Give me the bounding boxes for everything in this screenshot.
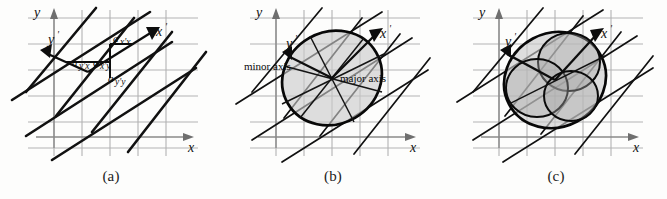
figure-root: y x x ' y [0, 0, 667, 199]
axis-x-prime-a [88, 27, 160, 72]
label-minor-axis-b: minor axis [244, 60, 291, 72]
axis-label-x-prime-mark-b: ' [389, 24, 392, 34]
panel-a-diagram: y x x ' y [0, 0, 222, 170]
axis-label-x-prime-a: x [155, 24, 163, 39]
axis-y-a [50, 8, 58, 148]
coefficient-label-y-prime-x: a y'x [72, 56, 90, 71]
caption-c: (c) [445, 168, 667, 185]
panel-a: y x x ' y [0, 0, 222, 199]
svg-text:y'x: y'x [78, 61, 90, 71]
svg-text:a: a [108, 72, 114, 84]
axis-label-y-c: y [477, 5, 486, 20]
svg-text:x'y: x'y [99, 61, 111, 71]
label-major-axis-b: major axis [340, 72, 386, 84]
panel-c: y x [445, 0, 667, 199]
svg-text:a: a [113, 32, 119, 44]
svg-text:a: a [72, 56, 78, 68]
svg-text:a: a [93, 56, 99, 68]
axis-label-x-prime-c: x [600, 26, 608, 41]
axis-x-a [36, 133, 194, 141]
axis-x-b [258, 133, 416, 141]
axis-label-y-prime-a: y [46, 32, 55, 47]
panel-b: y x [222, 0, 444, 199]
panel-c-diagram: y x [445, 0, 667, 170]
panel-b-diagram: y x [222, 0, 444, 170]
axis-label-y-a: y [32, 5, 41, 20]
axis-label-y-prime-b: y [284, 36, 293, 51]
axis-label-x-a: x [187, 140, 195, 155]
axis-label-y-prime-c: y [503, 34, 512, 49]
axis-label-y-prime-mark-a: ' [57, 30, 60, 40]
axis-label-y-prime-mark-b: ' [295, 34, 298, 44]
axis-label-x-prime-b: x [379, 26, 387, 41]
axis-label-x-c: x [632, 140, 640, 155]
svg-text:y'y: y'y [114, 77, 126, 87]
axis-x-c [481, 133, 639, 141]
caption-a: (a) [0, 168, 222, 185]
axis-label-y-b: y [254, 5, 263, 20]
axis-label-x-b: x [409, 140, 417, 155]
axis-label-x-prime-mark-c: ' [610, 24, 613, 34]
caption-b: (b) [222, 168, 444, 185]
axis-label-x-prime-mark-a: ' [165, 22, 168, 32]
svg-text:x'x: x'x [119, 37, 131, 47]
